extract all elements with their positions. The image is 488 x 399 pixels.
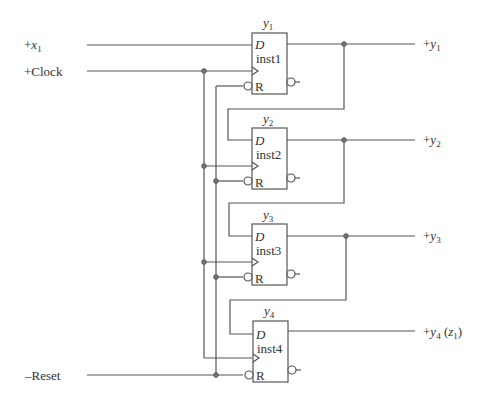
junction-dot — [344, 234, 349, 239]
output-label-y1: +y1 — [423, 37, 441, 53]
output-label-y2: +y2 — [423, 133, 441, 149]
input-label-reset: –Reset — [25, 369, 60, 382]
flipflop-2-name: inst2 — [256, 148, 281, 161]
shift-register-diagram: +x1 +Clock –Reset y1 D inst1 R y2 D inst… — [0, 0, 488, 399]
circuit-wiring — [0, 0, 488, 399]
junction-dot — [202, 69, 207, 74]
input-label-x1: +x1 — [24, 38, 42, 54]
junction-dot — [202, 260, 207, 265]
flipflop-3-d-label: D — [255, 230, 264, 243]
qbar-bubble-icon-2 — [287, 174, 295, 182]
flipflop-4-d-label: D — [256, 328, 265, 341]
output-label-y3: +y3 — [423, 229, 441, 245]
junction-dot — [214, 373, 219, 378]
flipflop-4-r-label: R — [256, 369, 265, 382]
qbar-bubble-icon-1 — [287, 78, 295, 86]
flipflop-3-r-label: R — [255, 272, 264, 285]
feedback-wire-1-2 — [228, 44, 344, 140]
junction-dot — [342, 138, 347, 143]
qbar-bubble-icon-4 — [288, 366, 296, 374]
qbar-bubble-icon-3 — [287, 270, 295, 278]
junction-dot — [214, 179, 219, 184]
flipflop-4-title: y4 — [264, 304, 274, 320]
reset-bubble-icon-1 — [244, 82, 252, 90]
input-label-clock: +Clock — [24, 65, 62, 78]
junction-dot — [202, 164, 207, 169]
flipflop-2-r-label: R — [255, 176, 264, 189]
junction-dot — [214, 275, 219, 280]
flipflop-1-d-label: D — [255, 38, 264, 51]
clock-triangle-icon-1 — [252, 67, 258, 75]
flipflop-2-d-label: D — [255, 134, 264, 147]
reset-bubble-icon-4 — [245, 371, 253, 379]
output-label-y4-z1: +y4 (z1) — [423, 325, 462, 341]
flipflop-1-name: inst1 — [256, 52, 281, 65]
flipflop-1-r-label: R — [255, 80, 264, 93]
clock-triangle-icon-3 — [252, 258, 258, 266]
feedback-wire-3-4 — [230, 236, 346, 334]
flipflop-3-title: y3 — [263, 208, 273, 224]
clock-triangle-icon-2 — [252, 162, 258, 170]
junction-dot — [342, 42, 347, 47]
flipflop-4-name: inst4 — [257, 342, 282, 355]
flipflop-2-title: y2 — [263, 112, 273, 128]
reset-bubble-icon-2 — [244, 177, 252, 185]
flipflop-1-title: y1 — [263, 16, 273, 32]
reset-bubble-icon-3 — [244, 273, 252, 281]
flipflop-3-name: inst3 — [256, 244, 281, 257]
